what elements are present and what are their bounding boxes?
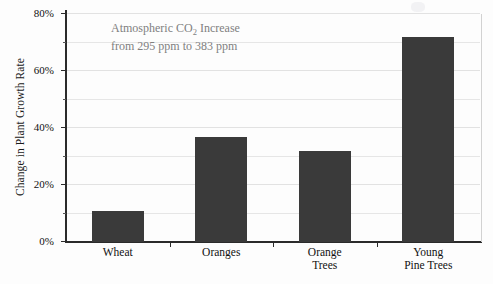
annotation-line-1-part-1: Atmospheric CO (111, 21, 193, 35)
x-axis-label-line: Pine Trees (377, 259, 481, 272)
x-axis-label-line: Trees (273, 259, 377, 272)
y-axis-tick-label: 0% (39, 235, 54, 247)
y-axis-title: Change in Plant Growth Rate (10, 3, 30, 251)
bar-wheat (92, 211, 144, 242)
x-axis-label-line: Orange (273, 246, 377, 259)
x-axis-label-wheat: Wheat (66, 246, 170, 272)
x-axis-label-orange-trees: OrangeTrees (273, 246, 377, 272)
y-axis-tick-label: 40% (34, 121, 54, 133)
x-axis-label-line: Young (377, 246, 481, 259)
x-axis-labels: WheatOrangesOrangeTreesYoungPine Trees (66, 246, 480, 272)
bar-slot (377, 14, 481, 242)
x-axis-label-young-pine-trees: YoungPine Trees (377, 246, 481, 272)
scan-artifact (411, 2, 425, 12)
y-axis-tick-label: 80% (34, 7, 54, 19)
annotation-line-2: from 295 ppm to 383 ppm (111, 38, 240, 55)
annotation-line-1-part-2: Increase (197, 21, 240, 35)
x-axis-label-oranges: Oranges (170, 246, 274, 272)
bar-orange-trees (299, 151, 351, 242)
bar-chart-figure: Change in Plant Growth Rate 0%20%40%60%8… (0, 0, 493, 284)
y-axis-tick-label: 60% (34, 64, 54, 76)
y-axis-tick-label: 20% (34, 178, 54, 190)
x-axis-label-line: Oranges (170, 246, 274, 259)
chart-annotation: Atmospheric CO2 Increase from 295 ppm to… (111, 20, 240, 55)
bar-slot (273, 14, 377, 242)
co2-subscript: 2 (193, 27, 197, 37)
x-axis-label-line: Wheat (66, 246, 170, 259)
bar-young-pine-trees (402, 37, 454, 242)
bar-oranges (195, 137, 247, 242)
annotation-line-1: Atmospheric CO2 Increase (111, 20, 240, 38)
right-border-line (481, 14, 482, 242)
